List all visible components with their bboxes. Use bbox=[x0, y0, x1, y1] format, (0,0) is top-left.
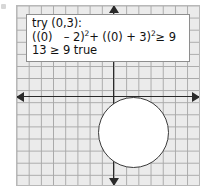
work-line-3: 13 ≥ 9 true bbox=[32, 44, 185, 58]
corner-tick-mark bbox=[1, 4, 6, 9]
arrow-right-icon bbox=[192, 92, 200, 102]
work-callout-box: try (0,3): ((0) – 2)2+ ((0) + 3)2≥ 9 13 … bbox=[26, 14, 190, 62]
arrow-up-icon bbox=[109, 5, 119, 13]
arrow-down-icon bbox=[109, 178, 119, 186]
work-line-1: try (0,3): bbox=[32, 17, 185, 31]
work-line-2-tail: ≥ 9 bbox=[156, 30, 176, 44]
inequality-boundary-circle bbox=[98, 97, 169, 168]
work-line-2-plus: + ((0) + 3) bbox=[89, 30, 151, 44]
work-line-2-part1: ((0) bbox=[32, 30, 52, 44]
work-line-2-spacer bbox=[52, 30, 63, 44]
work-line-2-minus: – 2) bbox=[64, 30, 85, 44]
arrow-left-icon bbox=[16, 92, 24, 102]
x-axis bbox=[17, 96, 200, 97]
work-line-2: ((0) – 2)2+ ((0) + 3)2≥ 9 bbox=[32, 31, 185, 45]
inequality-graph-figure: try (0,3): ((0) – 2)2+ ((0) + 3)2≥ 9 13 … bbox=[0, 0, 206, 191]
